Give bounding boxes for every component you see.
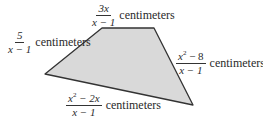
left-unit: centimeters <box>35 35 90 50</box>
top-unit: centimeters <box>119 8 174 23</box>
left-denominator: x − 1 <box>8 43 31 55</box>
right-num-rest: − 8 <box>186 50 203 62</box>
left-side-label: 5 x − 1 centimeters <box>8 30 91 55</box>
top-side-label: 3x x − 1 centimeters <box>92 3 175 28</box>
right-side-label: x2 − 8 x − 1 centimeters <box>176 51 263 76</box>
bottom-unit: centimeters <box>106 98 161 113</box>
bottom-side-fraction: x2 − 2x x − 1 <box>66 93 102 118</box>
left-side-fraction: 5 x − 1 <box>8 30 31 55</box>
left-numerator: 5 <box>15 30 25 43</box>
top-numerator: 3x <box>96 3 110 16</box>
bottom-num-rest: − 2x <box>76 92 99 104</box>
right-side-fraction: x2 − 8 x − 1 <box>176 51 206 76</box>
top-denominator: x − 1 <box>92 16 115 28</box>
bottom-side-label: x2 − 2x x − 1 centimeters <box>66 93 161 118</box>
bottom-denominator: x − 1 <box>72 106 95 118</box>
right-unit: centimeters <box>210 56 263 71</box>
right-numerator: x2 − 8 <box>176 51 206 64</box>
right-denominator: x − 1 <box>179 64 202 76</box>
bottom-numerator: x2 − 2x <box>66 93 102 106</box>
top-side-fraction: 3x x − 1 <box>92 3 115 28</box>
